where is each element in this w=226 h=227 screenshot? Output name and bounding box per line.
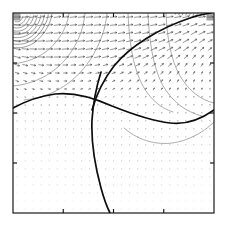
vector-arrow-dot bbox=[57, 193, 58, 194]
vector-arrow-dot bbox=[33, 209, 34, 210]
vector-arrow bbox=[170, 120, 171, 121]
vector-arrow-dot bbox=[89, 201, 90, 202]
vector-arrow-dot bbox=[49, 193, 50, 194]
vector-arrow-dot bbox=[73, 201, 74, 202]
vector-arrow-dot bbox=[17, 185, 18, 186]
vector-arrow-dot bbox=[81, 209, 82, 210]
vector-arrow-dot bbox=[41, 201, 42, 202]
vector-field-contour-plot bbox=[0, 0, 226, 227]
vector-arrow-dot bbox=[73, 209, 74, 210]
vector-arrow-dot bbox=[153, 201, 154, 202]
vector-arrow-dot bbox=[210, 209, 211, 210]
vector-arrow-dot bbox=[25, 185, 26, 186]
top-right-vortex-core bbox=[207, 14, 214, 21]
vector-arrow-dot bbox=[202, 193, 203, 194]
vector-arrow-dot bbox=[202, 209, 203, 210]
vector-arrow-dot bbox=[97, 201, 98, 202]
vector-arrow-dot bbox=[202, 185, 203, 186]
vector-arrow-dot bbox=[65, 201, 66, 202]
vector-arrow-dot bbox=[89, 209, 90, 210]
vector-arrow-dot bbox=[202, 201, 203, 202]
vector-arrow-dot bbox=[33, 193, 34, 194]
vector-arrow-dot bbox=[137, 201, 138, 202]
vector-arrow-dot bbox=[161, 201, 162, 202]
vector-arrow-dot bbox=[169, 193, 170, 194]
vector-arrow-dot bbox=[169, 209, 170, 210]
vector-arrow-dot bbox=[49, 209, 50, 210]
vector-arrow-dot bbox=[186, 201, 187, 202]
vector-arrow-dot bbox=[41, 209, 42, 210]
vector-arrow-dot bbox=[194, 201, 195, 202]
vector-arrow-dot bbox=[25, 209, 26, 210]
vector-arrow-dot bbox=[177, 209, 178, 210]
vector-arrow-dot bbox=[97, 209, 98, 210]
figure-root bbox=[0, 0, 226, 227]
vector-arrow-dot bbox=[105, 209, 106, 210]
vector-arrow-dot bbox=[129, 209, 130, 210]
vector-arrow-dot bbox=[49, 201, 50, 202]
vector-arrow-dot bbox=[41, 193, 42, 194]
vector-arrow-dot bbox=[81, 201, 82, 202]
vector-arrow-dot bbox=[210, 193, 211, 194]
top-right-vortex-ring-9 bbox=[175, 0, 212, 14]
vector-arrow-dot bbox=[177, 193, 178, 194]
vector-arrow-dot bbox=[121, 209, 122, 210]
top-left-vortex-core bbox=[14, 14, 21, 21]
vector-arrow-dot bbox=[153, 209, 154, 210]
vector-arrow-dot bbox=[17, 209, 18, 210]
vector-arrow-dot bbox=[65, 193, 66, 194]
vector-arrow-dot bbox=[33, 201, 34, 202]
vector-arrow-dot bbox=[210, 185, 211, 186]
vector-arrow-dot bbox=[186, 193, 187, 194]
vector-arrow-dot bbox=[210, 201, 211, 202]
vector-arrow-dot bbox=[57, 201, 58, 202]
vector-arrow-dot bbox=[145, 209, 146, 210]
vector-arrow-dot bbox=[57, 209, 58, 210]
vector-arrow-dot bbox=[17, 193, 18, 194]
vector-arrow-dot bbox=[186, 209, 187, 210]
vector-arrow-dot bbox=[145, 201, 146, 202]
vector-arrow-dot bbox=[194, 209, 195, 210]
vector-arrow bbox=[56, 105, 58, 106]
vector-arrow-dot bbox=[177, 201, 178, 202]
vector-arrow-dot bbox=[137, 209, 138, 210]
vector-arrow-dot bbox=[25, 193, 26, 194]
vector-arrow bbox=[49, 113, 50, 114]
vector-arrow-dot bbox=[17, 201, 18, 202]
vector-arrow-dot bbox=[161, 209, 162, 210]
vector-arrow-dot bbox=[194, 193, 195, 194]
vector-arrow-dot bbox=[113, 201, 114, 202]
vector-arrow-dot bbox=[65, 209, 66, 210]
vector-arrow bbox=[57, 113, 58, 114]
vector-arrow-dot bbox=[25, 201, 26, 202]
vector-arrow-dot bbox=[121, 201, 122, 202]
vector-arrow-dot bbox=[169, 201, 170, 202]
vector-arrow-dot bbox=[129, 201, 130, 202]
